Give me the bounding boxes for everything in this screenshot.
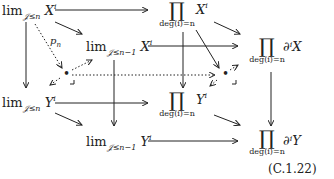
- node-prod-dY-obj: ∂ⁱY: [283, 134, 301, 147]
- node-prod-X-obj: Xi: [196, 3, 208, 16]
- label-pn: pn: [50, 35, 61, 46]
- pullback-corner-2: [232, 80, 236, 84]
- arrow-limYn-limYn1: [55, 113, 82, 125]
- node-prod-dX-obj: ∂ⁱX: [283, 40, 302, 53]
- arrow-pb2-prodY: [210, 80, 217, 86]
- arrow-limXn-limXn1: [55, 22, 82, 34]
- node-lim-X-n-1: lim𝒥≤n−1 Xi: [86, 40, 152, 53]
- arrow-prodX-prodDX: [214, 22, 240, 34]
- arrow-pb1-limXn1: [72, 60, 92, 70]
- arrow-pb1-limYn: [50, 78, 60, 85]
- node-lim-Y-n-1: lim𝒥≤n−1 Yi: [86, 135, 152, 148]
- node-prod-Y: ∏ deg(i)=n: [152, 90, 202, 118]
- equation-number: (C.1.22): [268, 162, 317, 176]
- pullback-point-2: •: [222, 68, 229, 80]
- node-lim-X-n: lim𝒥≤n Xi: [2, 4, 56, 17]
- node-prod-Y-obj: Yi: [196, 93, 207, 106]
- arrow-prodY-prodDY: [214, 115, 240, 125]
- node-lim-Y-n: lim𝒥≤n Yi: [2, 96, 56, 109]
- arrow-prodX-pb2: [196, 30, 219, 68]
- arrow-pb2-prodDX: [230, 65, 238, 70]
- pullback-corner-1: [70, 80, 74, 84]
- node-prod-X: ∏ deg(i)=n: [152, 0, 202, 28]
- pullback-point-1: •: [63, 68, 70, 80]
